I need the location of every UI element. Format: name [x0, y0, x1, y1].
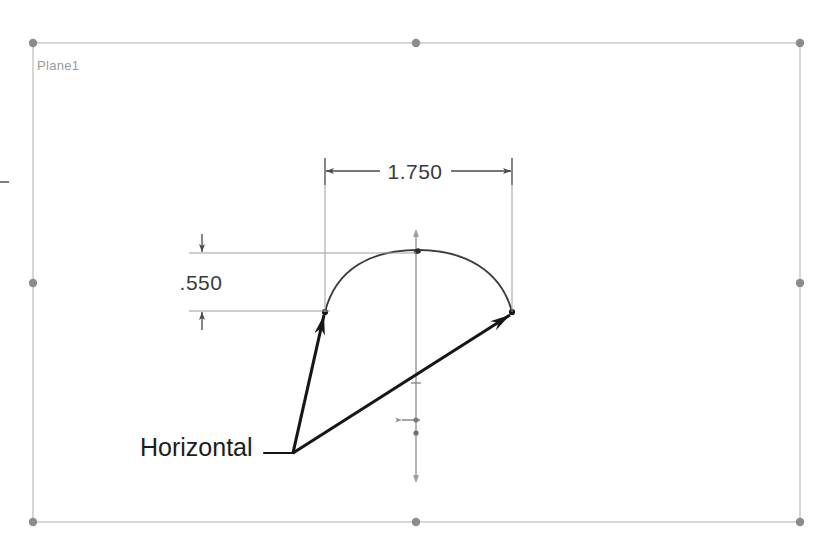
- plane-handle-bottom-left[interactable]: [29, 518, 37, 526]
- arc-apex-point[interactable]: [415, 248, 421, 254]
- plane-handle-top-right[interactable]: [796, 39, 804, 47]
- vertical-centerline-group[interactable]: [402, 229, 421, 483]
- horizontal-relation-label[interactable]: Horizontal: [140, 433, 253, 461]
- plane-handle-left-middle[interactable]: [29, 279, 37, 287]
- plane-handle-bottom-middle[interactable]: [412, 518, 420, 526]
- callout-arrow-to-right-endpoint[interactable]: [293, 315, 510, 453]
- plane-handle-right-middle[interactable]: [796, 279, 804, 287]
- plane-label: Plane1: [37, 58, 79, 73]
- centerline-arrow-top-icon: [413, 229, 419, 237]
- centerline-point-upper[interactable]: [413, 417, 418, 422]
- callout-arrow-to-left-endpoint[interactable]: [293, 315, 324, 453]
- vertical-dimension-group[interactable]: .550: [180, 234, 416, 330]
- sketch-arc-group[interactable]: [322, 248, 515, 315]
- cad-sketch-viewport[interactable]: Plane1: [0, 0, 825, 548]
- plane-handle-top-middle[interactable]: [412, 39, 420, 47]
- horizontal-relation-callout-group[interactable]: Horizontal: [140, 315, 510, 461]
- centerline-arrow-bottom-icon: [413, 475, 419, 483]
- sketch-arc[interactable]: [325, 250, 512, 312]
- vertical-dimension-value[interactable]: .550: [180, 271, 223, 294]
- plane-handle-bottom-right[interactable]: [796, 518, 804, 526]
- horizontal-dimension-value[interactable]: 1.750: [387, 160, 442, 183]
- plane-handle-top-left[interactable]: [29, 39, 37, 47]
- sketch-drawing-area[interactable]: Plane1: [0, 0, 825, 548]
- horizontal-dimension-group[interactable]: 1.750: [325, 158, 512, 312]
- centerline-point-lower[interactable]: [413, 430, 418, 435]
